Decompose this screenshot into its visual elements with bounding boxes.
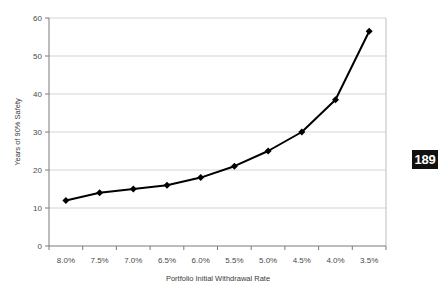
x-tick-label-9: 3.5% [360,256,378,265]
y-axis-tick-labels: 60 50 40 30 20 10 0 [33,14,42,251]
x-axis-tick-labels: 8.0% 7.5% 7.0% 6.5% 6.0% 5.5% 5.0% 4.5% … [57,256,379,265]
x-tick-label-1: 7.5% [90,256,108,265]
y-tick-label-0: 0 [38,242,43,251]
y-tick-label-30: 30 [33,128,42,137]
y-tick-label-60: 60 [33,14,42,23]
y-tick-label-40: 40 [33,90,42,99]
chart-figure: 60 50 40 30 20 10 0 8.0% 7.5% 7.0% 6.5% … [0,0,400,292]
x-axis-ticks [49,246,386,250]
y-tick-label-50: 50 [33,52,42,61]
y-axis-ticks [45,18,49,246]
x-axis-title: Portfolio Initial Withdrawal Rate [166,274,270,283]
x-tick-label-2: 7.0% [124,256,142,265]
x-tick-label-4: 6.0% [192,256,210,265]
x-tick-label-8: 4.0% [326,256,344,265]
line-chart: 60 50 40 30 20 10 0 8.0% 7.5% 7.0% 6.5% … [0,0,400,292]
x-tick-label-3: 6.5% [158,256,176,265]
page-number-badge: 189 [412,150,438,169]
y-tick-label-20: 20 [33,166,42,175]
y-axis-title: Years of 90% Safety [13,98,22,166]
x-tick-label-7: 4.5% [293,256,311,265]
y-tick-label-10: 10 [33,204,42,213]
x-tick-label-0: 8.0% [57,256,75,265]
x-tick-label-5: 5.5% [225,256,243,265]
x-tick-label-6: 5.0% [259,256,277,265]
